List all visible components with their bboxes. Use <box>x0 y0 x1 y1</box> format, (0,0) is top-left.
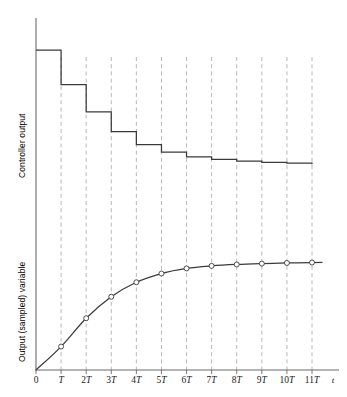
x-tick-label-7T: 7T <box>207 375 218 385</box>
sample-marker-4T <box>134 280 139 285</box>
sample-marker-6T <box>184 266 189 271</box>
x-tick-label-6T: 6T <box>182 375 193 385</box>
sample-marker-8T <box>234 262 239 267</box>
gridlines-group <box>61 57 312 370</box>
x-tick-label-4T: 4T <box>131 375 142 385</box>
x-tick-label-2T: 2T <box>81 375 92 385</box>
sample-marker-11T <box>310 260 315 265</box>
x-axis-name-label: t <box>332 375 335 385</box>
sample-marker-2T <box>84 316 89 321</box>
x-tick-label-9T: 9T <box>257 375 268 385</box>
x-tick-label-T: T <box>58 375 64 385</box>
x-tick-label-5T: 5T <box>156 375 167 385</box>
x-tick-label-3T: 3T <box>106 375 117 385</box>
x-axis-tick-labels-group: 0T2T3T4T5T6T7T8T9T10T11T <box>34 375 320 385</box>
x-axis-ticks-group <box>36 370 312 374</box>
figure-container: Controller output Output (sampled) varia… <box>0 0 347 397</box>
sample-marker-5T <box>159 271 164 276</box>
x-tick-label-11T: 11T <box>305 375 320 385</box>
controller-output-step-trace <box>36 50 313 164</box>
x-tick-label-10T: 10T <box>280 375 296 385</box>
sample-marker-7T <box>209 263 214 268</box>
sample-marker-3T <box>109 294 114 299</box>
sampled-output-curve-trace <box>36 262 322 370</box>
sample-marker-T <box>59 344 64 349</box>
x-tick-label-0: 0 <box>34 375 39 385</box>
axis-lines-group <box>36 18 339 370</box>
sample-marker-10T <box>284 260 289 265</box>
sample-marker-9T <box>259 261 264 266</box>
x-tick-label-8T: 8T <box>232 375 243 385</box>
chart-plot-area: 0T2T3T4T5T6T7T8T9T10T11T t <box>0 0 347 397</box>
